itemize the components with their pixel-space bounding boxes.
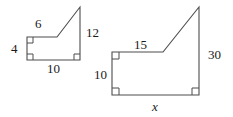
- left-vertical-side-label: 4: [11, 42, 18, 55]
- left-top-side-label: 6: [35, 17, 42, 30]
- right-top-side-label: 15: [134, 38, 147, 51]
- left-right-angle-mark-bottom-right: [74, 54, 80, 60]
- left-right-angle-mark-bottom-left: [27, 54, 33, 60]
- right-polygon-group: [112, 7, 199, 95]
- similar-figures-diagram: 6 4 12 10 15 10 30 x: [0, 0, 233, 117]
- left-right-side-label: 12: [86, 26, 99, 39]
- right-right-angle-mark-bottom-left: [112, 88, 119, 95]
- left-right-angle-mark-top-left: [27, 37, 33, 43]
- right-polygon-outline: [112, 7, 199, 95]
- right-right-angle-mark-bottom-right: [192, 88, 199, 95]
- right-right-angle-mark-top-left: [112, 52, 119, 59]
- left-polygon-outline: [27, 7, 80, 60]
- right-right-side-label: 30: [208, 48, 221, 61]
- right-vertical-side-label: 10: [94, 68, 107, 81]
- left-polygon-group: [27, 7, 80, 60]
- left-bottom-side-label: 10: [47, 62, 60, 75]
- right-bottom-side-label-unknown: x: [152, 100, 158, 113]
